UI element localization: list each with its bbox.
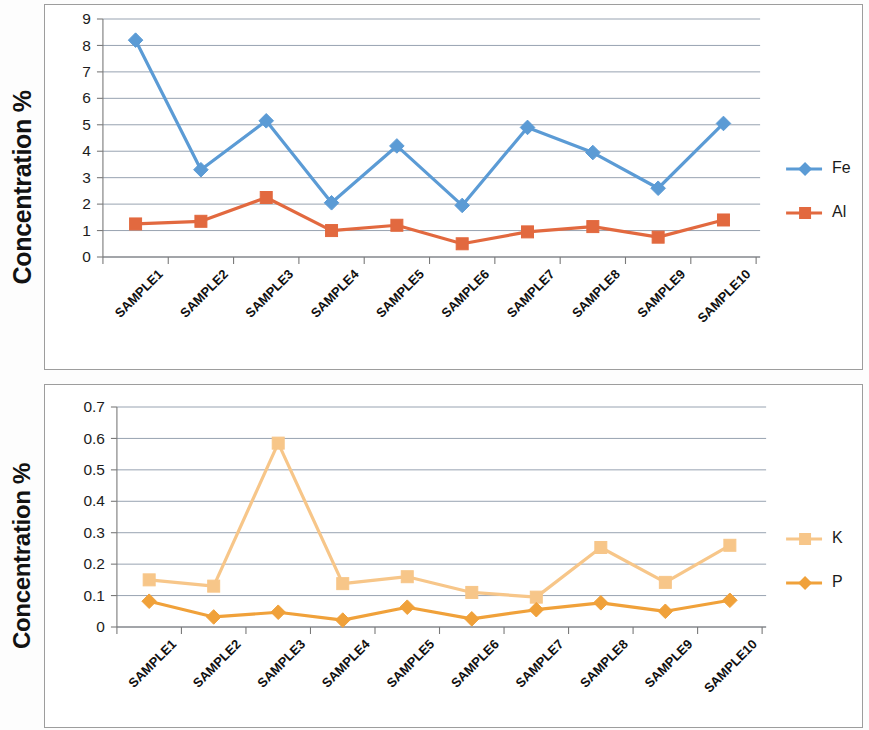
plot-frame-top: 0123456789SAMPLE1SAMPLE2SAMPLE3SAMPLE4SA…: [44, 4, 863, 370]
series-marker-P: [464, 612, 479, 627]
legend-entry-P: P: [786, 573, 843, 590]
series-line-K: [149, 443, 730, 597]
x-tick-label: SAMPLE8: [569, 267, 623, 321]
series-Fe: [128, 33, 730, 213]
legend-entry-Al: Al: [786, 203, 846, 220]
plot-area-top: 0123456789SAMPLE1SAMPLE2SAMPLE3SAMPLE4SA…: [45, 5, 862, 369]
y-tick-label: 4: [82, 142, 91, 159]
legend-entry-Fe: Fe: [786, 159, 851, 176]
legend-marker-Al: [799, 207, 811, 219]
x-tick-label: SAMPLE5: [383, 637, 437, 691]
x-tick-label: SAMPLE3: [242, 267, 296, 321]
series-Al: [130, 192, 730, 250]
series-line-Fe: [136, 40, 724, 205]
x-tick-label: SAMPLE10: [695, 267, 754, 326]
series-marker-Al: [260, 192, 272, 204]
y-tick-label: 1: [82, 222, 91, 239]
series-marker-P: [594, 596, 609, 611]
y-tick-label: 0.4: [83, 492, 105, 509]
series-marker-P: [206, 610, 221, 625]
y-tick-label: 9: [82, 10, 91, 27]
series-marker-Fe: [586, 145, 601, 160]
series-marker-Al: [456, 238, 468, 250]
x-tick-label: SAMPLE9: [641, 637, 695, 691]
series-marker-Al: [587, 221, 599, 233]
series-marker-P: [142, 594, 157, 609]
series-marker-K: [595, 541, 607, 553]
y-tick-label: 8: [82, 37, 91, 54]
series-marker-Al: [130, 218, 142, 230]
series-marker-K: [659, 576, 671, 588]
y-tick-label: 6: [82, 89, 91, 106]
x-tick-label: SAMPLE7: [504, 267, 558, 321]
page-canvas: Concentration % 0123456789SAMPLE1SAMPLE2…: [0, 0, 869, 730]
plot-area-bottom: 00.10.20.30.40.50.60.7SAMPLE1SAMPLE2SAMP…: [45, 385, 862, 727]
x-tick-label: SAMPLE4: [319, 636, 373, 691]
series-marker-Al: [717, 214, 729, 226]
legend-marker-K: [799, 533, 811, 545]
legend-marker-P: [798, 576, 812, 590]
y-tick-label: 0: [96, 618, 105, 635]
series-marker-K: [466, 586, 478, 598]
x-tick-label: SAMPLE1: [112, 267, 166, 321]
series-line-P: [149, 600, 730, 620]
series-marker-K: [143, 574, 155, 586]
series-marker-K: [208, 580, 220, 592]
series-marker-K: [337, 578, 349, 590]
plot-frame-bottom: 00.10.20.30.40.50.60.7SAMPLE1SAMPLE2SAMP…: [44, 384, 863, 728]
legend-label-Al: Al: [832, 203, 846, 220]
series-marker-Al: [326, 225, 338, 237]
series-marker-Al: [652, 231, 664, 243]
y-axis-title-bottom-text: Concentration %: [8, 463, 36, 649]
series-marker-K: [724, 539, 736, 551]
x-tick-label: SAMPLE7: [512, 637, 566, 691]
x-tick-label: SAMPLE10: [701, 637, 760, 696]
legend-label-Fe: Fe: [832, 159, 851, 176]
series-marker-Al: [391, 219, 403, 231]
y-tick-label: 0.3: [83, 524, 105, 541]
x-tick-label: SAMPLE3: [254, 637, 308, 691]
y-tick-label: 5: [82, 116, 91, 133]
series-marker-P: [271, 605, 286, 620]
x-tick-label: SAMPLE4: [308, 266, 362, 321]
y-tick-label: 3: [82, 169, 91, 186]
y-tick-label: 0.7: [83, 398, 105, 415]
series-marker-P: [400, 600, 415, 615]
series-marker-K: [530, 591, 542, 603]
series-marker-P: [335, 613, 350, 628]
x-tick-label: SAMPLE9: [634, 267, 688, 321]
y-axis-title-top-text: Concentration %: [8, 90, 37, 284]
y-axis-title-top: Concentration %: [0, 4, 44, 370]
y-tick-label: 0: [82, 248, 91, 265]
legend-entry-K: K: [786, 529, 843, 546]
y-tick-label: 0.1: [83, 587, 105, 604]
series-K: [143, 437, 736, 603]
x-tick-label: SAMPLE6: [448, 637, 502, 691]
series-marker-Al: [195, 215, 207, 227]
legend-label-K: K: [832, 529, 843, 546]
series-marker-K: [401, 571, 413, 583]
series-marker-K: [272, 437, 284, 449]
series-marker-P: [658, 604, 673, 619]
y-tick-label: 0.6: [83, 430, 105, 447]
y-axis-title-bottom: Concentration %: [0, 384, 44, 728]
series-P: [142, 593, 737, 627]
y-tick-label: 0.5: [83, 461, 105, 478]
series-marker-P: [529, 602, 544, 617]
series-marker-Al: [522, 226, 534, 238]
legend-marker-Fe: [798, 162, 812, 176]
y-tick-label: 2: [82, 195, 91, 212]
x-tick-label: SAMPLE5: [373, 267, 427, 321]
x-tick-label: SAMPLE2: [190, 637, 244, 691]
legend-label-P: P: [832, 573, 843, 590]
chart-bottom: Concentration % 00.10.20.30.40.50.60.7SA…: [0, 384, 869, 728]
x-tick-label: SAMPLE2: [177, 267, 231, 321]
y-tick-label: 0.2: [83, 555, 105, 572]
chart-top: Concentration % 0123456789SAMPLE1SAMPLE2…: [0, 4, 869, 370]
x-tick-label: SAMPLE6: [438, 267, 492, 321]
y-tick-label: 7: [82, 63, 91, 80]
x-tick-label: SAMPLE1: [125, 637, 179, 691]
x-tick-label: SAMPLE8: [577, 637, 631, 691]
